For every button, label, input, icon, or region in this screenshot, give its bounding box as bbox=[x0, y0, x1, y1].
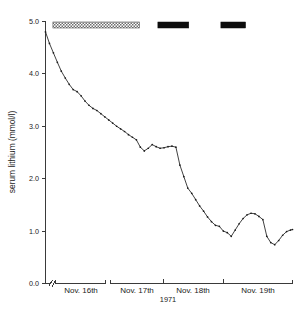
x-tick-label-nov18: Nov. 18th bbox=[176, 286, 210, 295]
y-axis-title: serum lithium (mmol/l) bbox=[7, 111, 17, 194]
serum-lithium-line-chart: 0.0 1.0 2.0 3.0 4.0 5.0 serum lithium (m… bbox=[0, 0, 306, 310]
y-tick-label-5: 5.0 bbox=[29, 17, 39, 26]
x-axis: Nov. 16th Nov. 17th Nov. 18th Nov. 19th … bbox=[46, 279, 293, 304]
chart-figure: 0.0 1.0 2.0 3.0 4.0 5.0 serum lithium (m… bbox=[0, 0, 306, 310]
data-point bbox=[191, 192, 193, 194]
data-point bbox=[195, 199, 197, 201]
y-tick-label-4: 4.0 bbox=[29, 69, 39, 78]
data-point bbox=[45, 31, 47, 33]
y-axis-tick-labels: 0.0 1.0 2.0 3.0 4.0 5.0 bbox=[29, 17, 39, 288]
data-point bbox=[290, 229, 292, 231]
x-tick-label-nov17: Nov. 17th bbox=[120, 286, 154, 295]
data-point bbox=[175, 146, 177, 148]
data-point bbox=[246, 214, 248, 216]
data-point bbox=[238, 223, 240, 225]
data-point bbox=[250, 212, 252, 214]
data-point bbox=[68, 83, 70, 85]
data-point bbox=[219, 226, 221, 228]
data-point bbox=[49, 43, 51, 45]
treatment-bar-hatched bbox=[53, 22, 139, 28]
data-point bbox=[163, 147, 165, 149]
serum-lithium-datapoints bbox=[45, 31, 294, 246]
data-point bbox=[132, 136, 134, 138]
y-tick-label-0: 0.0 bbox=[29, 279, 39, 288]
treatment-annotation-bars bbox=[53, 22, 246, 28]
data-point bbox=[124, 131, 126, 133]
data-point bbox=[108, 119, 110, 121]
data-point bbox=[147, 147, 149, 149]
data-point bbox=[171, 145, 173, 147]
data-point bbox=[151, 144, 153, 146]
data-point bbox=[120, 128, 122, 130]
data-point bbox=[116, 125, 118, 127]
x-axis-year-label: 1971 bbox=[160, 295, 176, 304]
data-point bbox=[64, 77, 66, 79]
y-tick-label-3: 3.0 bbox=[29, 122, 39, 131]
data-point bbox=[84, 100, 86, 102]
data-point bbox=[57, 61, 59, 63]
data-point bbox=[211, 221, 213, 223]
data-point bbox=[278, 240, 280, 242]
data-point bbox=[112, 122, 114, 124]
data-point bbox=[262, 219, 264, 221]
data-point bbox=[199, 205, 201, 207]
treatment-bar-solid-1 bbox=[158, 22, 189, 28]
data-point bbox=[292, 229, 294, 231]
data-point bbox=[242, 218, 244, 220]
data-point bbox=[155, 146, 157, 148]
data-point bbox=[203, 210, 205, 212]
data-point bbox=[286, 231, 288, 233]
data-point bbox=[230, 235, 232, 237]
x-tick-label-nov19: Nov. 19th bbox=[241, 286, 275, 295]
data-point bbox=[100, 113, 102, 115]
data-point bbox=[140, 146, 142, 148]
data-point bbox=[179, 164, 181, 166]
data-point bbox=[96, 110, 98, 112]
data-point bbox=[258, 216, 260, 218]
data-point bbox=[72, 89, 74, 91]
data-point bbox=[274, 244, 276, 246]
y-tick-label-1: 1.0 bbox=[29, 227, 39, 236]
data-point bbox=[128, 134, 130, 136]
serum-lithium-line bbox=[46, 32, 293, 245]
data-point bbox=[76, 91, 78, 93]
data-point bbox=[215, 224, 217, 226]
data-point bbox=[187, 187, 189, 189]
y-axis-ticks bbox=[42, 21, 46, 283]
data-point bbox=[80, 95, 82, 97]
x-axis-ticks bbox=[56, 279, 293, 284]
data-point bbox=[282, 234, 284, 236]
data-point bbox=[143, 150, 145, 152]
x-tick-label-nov16: Nov. 16th bbox=[64, 286, 98, 295]
data-point bbox=[92, 108, 94, 110]
data-point bbox=[60, 70, 62, 72]
x-axis-day-labels: Nov. 16th Nov. 17th Nov. 18th Nov. 19th bbox=[64, 286, 275, 295]
data-point bbox=[222, 230, 224, 232]
y-axis: 0.0 1.0 2.0 3.0 4.0 5.0 serum lithium (m… bbox=[7, 17, 46, 288]
treatment-bar-solid-2 bbox=[221, 22, 246, 28]
data-point bbox=[234, 229, 236, 231]
data-point bbox=[270, 242, 272, 244]
data-point bbox=[226, 232, 228, 234]
data-point bbox=[159, 147, 161, 149]
data-point bbox=[207, 216, 209, 218]
data-point bbox=[167, 146, 169, 148]
data-point bbox=[104, 116, 106, 118]
data-series-group bbox=[45, 31, 294, 246]
data-point bbox=[254, 213, 256, 215]
data-point bbox=[136, 139, 138, 141]
data-point bbox=[88, 104, 90, 106]
data-point bbox=[266, 235, 268, 237]
axis-break-icon bbox=[49, 280, 57, 287]
data-point bbox=[183, 176, 185, 178]
data-point bbox=[53, 52, 55, 54]
y-tick-label-2: 2.0 bbox=[29, 174, 39, 183]
